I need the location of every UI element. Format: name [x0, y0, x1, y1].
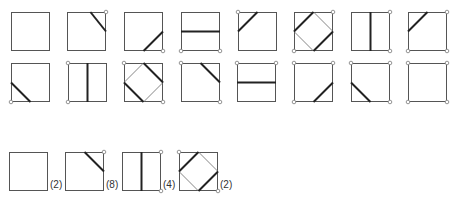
tile [408, 63, 447, 102]
tile-graphic [181, 63, 220, 102]
tile [124, 12, 163, 51]
tile [294, 12, 333, 51]
tile-graphic [294, 63, 333, 102]
tile-count-label: (2) [50, 179, 62, 190]
tile [238, 12, 277, 51]
tile [65, 152, 104, 191]
tile-graphic [351, 63, 390, 102]
tile-graphic [408, 63, 447, 102]
tile-graphic [124, 63, 163, 102]
tile-graphic [65, 152, 104, 191]
tile [408, 12, 447, 51]
tile-count-label: (4) [163, 179, 175, 190]
tile-graphic [68, 63, 107, 102]
tile-graphic [9, 152, 48, 191]
tile-graphic [294, 12, 333, 51]
tile [67, 12, 106, 51]
tile-graphic [181, 12, 220, 51]
tile [181, 12, 220, 51]
tile-graphic [408, 12, 447, 51]
tile-graphic [238, 12, 277, 51]
tile [237, 63, 276, 102]
tile-count-label: (2) [220, 179, 232, 190]
tile-count-label: (8) [106, 179, 118, 190]
tile [181, 63, 220, 102]
tile [68, 63, 107, 102]
tile [351, 12, 390, 51]
tile [9, 152, 48, 191]
tile-graphic [67, 12, 106, 51]
tile-graphic [351, 12, 390, 51]
tile [294, 63, 333, 102]
tile-graphic [237, 63, 276, 102]
tile [11, 63, 50, 102]
tile [351, 63, 390, 102]
tile-graphic [11, 12, 50, 51]
tile-graphic [11, 63, 50, 102]
tile [11, 12, 50, 51]
tile-graphic [124, 12, 163, 51]
tile-graphic [122, 152, 161, 191]
tile [124, 63, 163, 102]
tile [179, 152, 218, 191]
tile [122, 152, 161, 191]
tile-graphic [179, 152, 218, 191]
